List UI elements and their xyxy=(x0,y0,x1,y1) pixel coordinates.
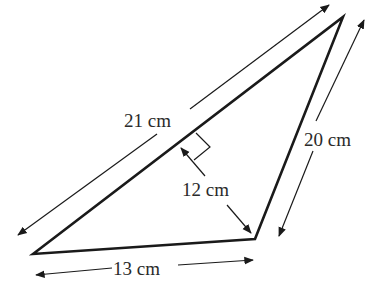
right-angle-marker xyxy=(194,133,210,160)
dimension-arrow-20cm xyxy=(279,20,364,236)
triangle-shape xyxy=(33,17,343,254)
triangle-diagram: 21 cm 20 cm 13 cm 12 cm xyxy=(0,0,381,291)
dimension-arrow-21cm xyxy=(18,5,329,235)
label-12cm: 12 cm xyxy=(182,180,229,199)
label-21cm: 21 cm xyxy=(124,111,171,130)
label-13cm: 13 cm xyxy=(113,259,160,278)
label-20cm: 20 cm xyxy=(304,130,351,149)
